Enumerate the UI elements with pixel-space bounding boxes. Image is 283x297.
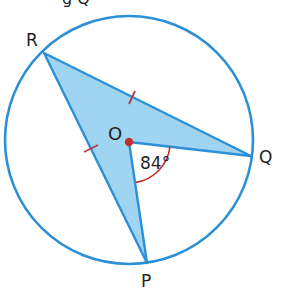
center-dot: [125, 138, 133, 146]
label-p: P: [141, 271, 151, 291]
angle-label: 84°: [140, 153, 170, 173]
circle-diagram: g Q R Q P O 84°: [0, 0, 283, 297]
label-q: Q: [259, 147, 272, 167]
label-r: R: [26, 30, 38, 50]
top-text-fragment: g Q: [62, 0, 90, 8]
label-o: O: [108, 123, 122, 144]
